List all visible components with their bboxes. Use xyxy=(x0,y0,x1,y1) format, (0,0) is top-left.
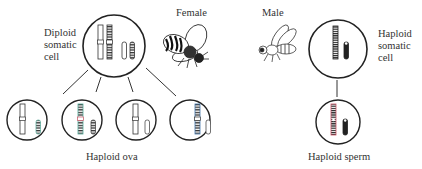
ovum-2 xyxy=(62,100,102,140)
meiosis-lines xyxy=(63,68,176,96)
diploid-label-line-3: cell xyxy=(44,51,77,63)
haploid-cell-label: Haploid somatic cell xyxy=(378,28,412,64)
haplodiploidy-diagram xyxy=(0,0,422,169)
male-bee-icon xyxy=(259,22,299,62)
haploid-label-line-1: Haploid xyxy=(378,28,412,40)
male-label: Male xyxy=(262,7,284,19)
haploid-ova-label: Haploid ova xyxy=(86,151,138,163)
ovum-3 xyxy=(116,100,156,140)
diploid-somatic-cell xyxy=(83,15,145,77)
ovum-1 xyxy=(7,100,47,140)
haploid-somatic-cell xyxy=(309,20,367,78)
sperm-cell xyxy=(316,100,360,144)
diploid-cell-label: Diploid somatic cell xyxy=(44,27,77,63)
female-bee-icon xyxy=(161,21,211,68)
ovum-4 xyxy=(170,100,211,140)
haploid-label-line-2: somatic xyxy=(378,40,412,52)
diploid-label-line-1: Diploid xyxy=(44,27,77,39)
haploid-label-line-3: cell xyxy=(378,52,412,64)
haploid-sperm-label: Haploid sperm xyxy=(308,151,370,163)
female-label: Female xyxy=(176,7,207,19)
diploid-label-line-2: somatic xyxy=(44,39,77,51)
